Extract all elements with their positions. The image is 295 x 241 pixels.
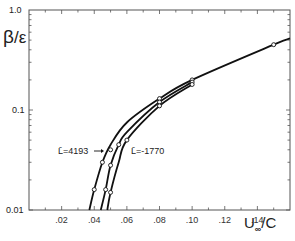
y-tick-label-0.01: 0.01 bbox=[6, 205, 24, 215]
x-label-u: U bbox=[244, 214, 255, 231]
y-tick-label-0.1: 0.1 bbox=[12, 105, 25, 115]
x-tick-label: .10 bbox=[186, 215, 199, 225]
data-marker bbox=[158, 104, 162, 108]
x-tick-label: .08 bbox=[153, 215, 166, 225]
y-label-epsilon: /ε bbox=[14, 28, 26, 47]
data-marker bbox=[100, 160, 104, 164]
data-marker bbox=[92, 188, 96, 192]
annotation-l4193: L̄=4193 bbox=[58, 146, 88, 156]
annotation-l-1770: L̄=-1770 bbox=[131, 146, 164, 156]
data-marker bbox=[109, 148, 113, 152]
x-tick-label: .12 bbox=[218, 215, 231, 225]
annotation-arrowhead bbox=[101, 149, 104, 153]
x-tick-label: .02 bbox=[55, 215, 68, 225]
y-label-beta: β bbox=[3, 26, 14, 47]
plot-frame bbox=[29, 10, 290, 210]
x-axis-label: U∞/C bbox=[244, 214, 276, 234]
x-label-c: /C bbox=[261, 214, 276, 231]
data-marker bbox=[117, 143, 121, 147]
data-marker bbox=[104, 188, 108, 192]
data-marker bbox=[190, 82, 194, 86]
data-marker bbox=[272, 43, 276, 47]
data-marker bbox=[109, 190, 113, 194]
series-line-0 bbox=[89, 38, 290, 210]
x-tick-label: .06 bbox=[121, 215, 134, 225]
data-marker bbox=[109, 163, 113, 167]
x-tick-label: .04 bbox=[88, 215, 101, 225]
y-tick-label-1: 1.0 bbox=[9, 5, 22, 15]
plot-area: .02.04.06.08.10.12.14 bbox=[0, 0, 295, 241]
y-axis-label: β/ε bbox=[3, 26, 26, 48]
chart-figure: .02.04.06.08.10.12.14 β/ε U∞/C L̄=4193 L… bbox=[0, 0, 295, 241]
data-marker bbox=[125, 138, 129, 142]
